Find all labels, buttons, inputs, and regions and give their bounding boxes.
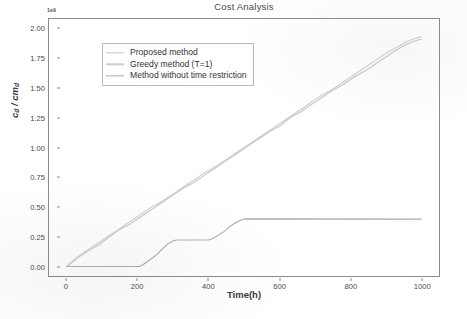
y-tick-label: 1.25 — [15, 113, 45, 122]
y-tick-label: 0.00 — [15, 263, 45, 272]
x-tick-mark — [279, 278, 280, 281]
y-tick-label: 0.50 — [15, 203, 45, 212]
y-tick-label: 1.50 — [15, 83, 45, 92]
y-axis-offset-text: 1e9 — [47, 7, 56, 13]
y-tick-label: 0.75 — [15, 173, 45, 182]
legend-label: Method without time restriction — [130, 70, 247, 82]
x-tick-mark — [208, 278, 209, 281]
legend-item[interactable]: Greedy method (T=1) — [106, 59, 247, 71]
y-tick-label: 1.75 — [15, 53, 45, 62]
chart-title: Cost Analysis — [48, 1, 440, 12]
x-axis-label: Time(h) — [48, 289, 440, 300]
legend-line-swatch — [106, 47, 124, 58]
legend-line-swatch — [106, 59, 124, 70]
legend-item[interactable]: Method without time restriction — [106, 70, 247, 82]
legend-label: Greedy method (T=1) — [130, 59, 212, 71]
x-tick-mark — [137, 278, 138, 281]
x-tick-mark — [422, 278, 423, 281]
legend-label: Proposed method — [130, 47, 198, 59]
x-tick-mark — [350, 278, 351, 281]
figure-canvas: Cost Analysis 1e9 cd / cmd 0.000.250.500… — [0, 0, 467, 319]
x-tick-mark — [65, 278, 66, 281]
y-tick-label: 0.25 — [15, 233, 45, 242]
legend-item[interactable]: Proposed method — [106, 47, 247, 59]
y-tick-label: 1.00 — [15, 143, 45, 152]
series-line — [67, 219, 422, 267]
legend-line-swatch — [106, 70, 124, 81]
y-axis-tick-labels: 0.000.250.500.751.001.251.501.752.00 — [12, 18, 45, 277]
plot-area: Proposed methodGreedy method (T=1)Method… — [48, 18, 440, 277]
y-tick-label: 2.00 — [15, 23, 45, 32]
chart-legend: Proposed methodGreedy method (T=1)Method… — [102, 43, 254, 86]
